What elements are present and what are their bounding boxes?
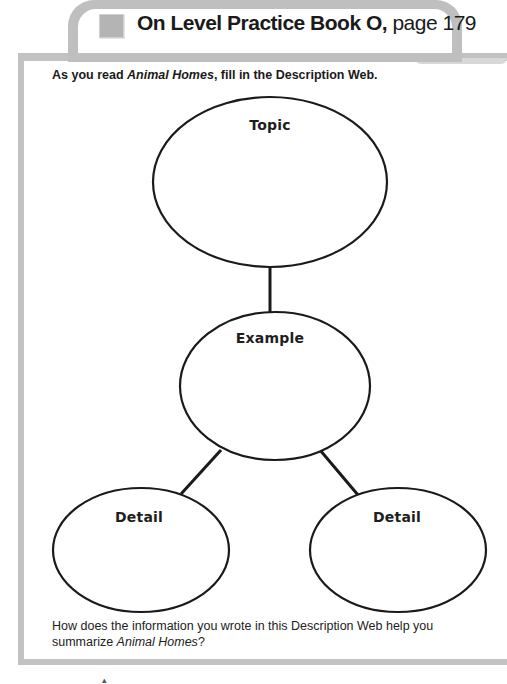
question-suffix: ? (198, 635, 205, 649)
detail-left-ellipse (53, 488, 229, 612)
detail-right-label: Detail (373, 509, 421, 525)
connector-example-detail-left (181, 450, 221, 494)
connector-example-detail-right (320, 450, 358, 495)
question-prefix: How does the information you wrote in th… (52, 619, 433, 649)
question-text: How does the information you wrote in th… (52, 618, 492, 650)
example-label: Example (236, 330, 304, 346)
detail-left-label: Detail (115, 509, 163, 525)
topic-label: Topic (249, 117, 290, 133)
question-book-title: Animal Homes (117, 635, 198, 649)
detail-right-ellipse (310, 488, 486, 612)
stray-mark: ▴ (102, 675, 107, 684)
